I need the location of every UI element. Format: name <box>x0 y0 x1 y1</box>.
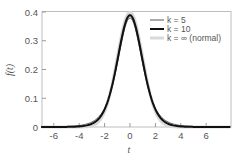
x-tick-label: 0 <box>127 130 132 141</box>
y-tick-label: 0 <box>33 122 38 133</box>
y-tick-label: 0.1 <box>25 93 38 104</box>
y-axis-label: f(t) <box>4 63 16 76</box>
y-tick-label: 0.4 <box>25 7 38 18</box>
y-tick-label: 0.2 <box>25 64 38 75</box>
x-tick-label: 2 <box>153 130 158 141</box>
x-tick-label: -2 <box>100 130 108 141</box>
density-curves <box>41 12 230 127</box>
legend: k = 5k = 10k = ∞ (normal) <box>150 15 221 43</box>
x-tick-label: -4 <box>75 130 83 141</box>
y-tick-label: 0.3 <box>25 35 38 46</box>
x-tick-label: 4 <box>178 130 183 141</box>
y-axis-ticks: 00.10.20.30.4 <box>25 7 46 133</box>
legend-label: k = ∞ (normal) <box>167 33 221 43</box>
x-tick-label: -6 <box>50 130 58 141</box>
x-tick-label: 6 <box>204 130 209 141</box>
t-distribution-chart: 00.10.20.30.4 -6-4-20246 k = 5k = 10k = … <box>0 0 241 160</box>
x-axis-label: t <box>128 144 131 155</box>
